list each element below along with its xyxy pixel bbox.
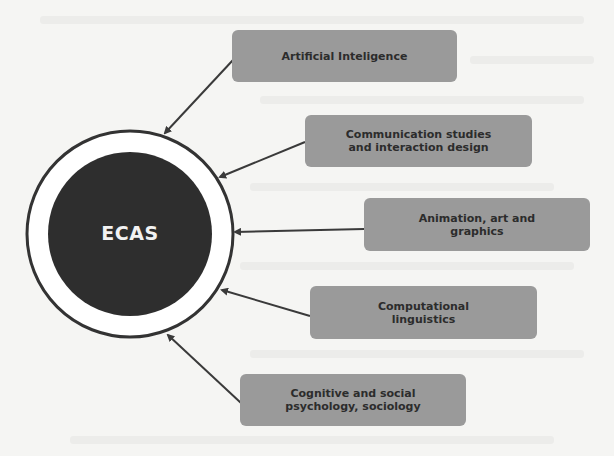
node-label: Cognitive and social psychology, sociolo… xyxy=(285,387,420,413)
diagram-canvas: ECAS Artificial Inteligence Communicatio… xyxy=(0,0,614,456)
node-animation-art-graphics: Animation, art and graphics xyxy=(364,198,590,251)
arrow-compling-to-ecas xyxy=(222,290,310,316)
node-communication-studies: Communication studies and interaction de… xyxy=(305,115,532,167)
node-cognitive-social-psychology: Cognitive and social psychology, sociolo… xyxy=(240,374,466,426)
arrow-ai-to-ecas xyxy=(165,60,233,133)
node-label: Computational linguistics xyxy=(378,300,469,326)
ecas-label: ECAS xyxy=(80,218,180,248)
node-label: Artificial Inteligence xyxy=(282,50,408,63)
node-label: Communication studies and interaction de… xyxy=(346,128,491,154)
arrow-comm-to-ecas xyxy=(220,142,305,177)
arrow-cogsoc-to-ecas xyxy=(168,335,241,403)
arrow-anim-to-ecas xyxy=(235,229,364,232)
node-artificial-intelligence: Artificial Inteligence xyxy=(232,30,457,82)
node-computational-linguistics: Computational linguistics xyxy=(310,286,537,339)
node-label: Animation, art and graphics xyxy=(419,212,536,238)
